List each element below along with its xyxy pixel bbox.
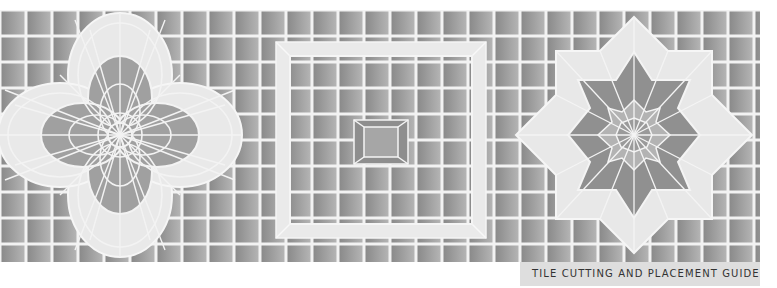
caption-label: TILE CUTTING AND PLACEMENT GUIDE xyxy=(520,262,760,286)
nested-square xyxy=(276,42,486,238)
tile-diagram xyxy=(0,0,777,288)
